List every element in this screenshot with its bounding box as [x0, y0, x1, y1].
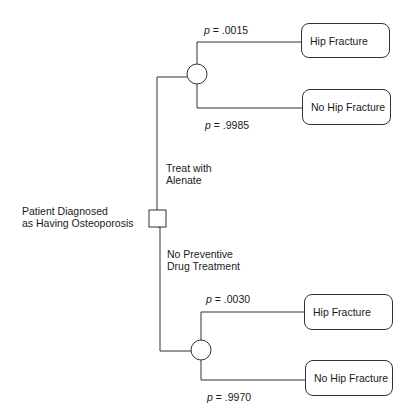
branch-label-no-treatment: No Preventive Drug Treatment: [167, 248, 240, 272]
probability-label: p = .9970: [207, 391, 251, 403]
root-label: Patient Diagnosed as Having Osteoporosis: [22, 205, 133, 229]
root-label-line2: as Having Osteoporosis: [22, 217, 133, 229]
branch-label-line2: Drug Treatment: [167, 260, 240, 272]
outcome-label: Hip Fracture: [313, 306, 371, 318]
branch-line-no-treatment: [158, 227, 191, 351]
branch-label-line1: Treat with: [166, 162, 212, 174]
outcome-label: No Hip Fracture: [311, 101, 385, 113]
outcome-box-hip-fracture: Hip Fracture: [304, 294, 393, 330]
branch-label-line2: Alenate: [166, 174, 212, 186]
probability-label: p = .9985: [205, 119, 249, 131]
outcome-box-hip-fracture: Hip Fracture: [301, 23, 390, 58]
outcome-box-no-hip-fracture: No Hip Fracture: [302, 89, 391, 125]
chance-node-circle-no-treatment: [191, 340, 211, 360]
branch-label-treat: Treat with Alenate: [166, 162, 212, 186]
chance-node-circle-treat: [187, 64, 207, 84]
outcome-label: Hip Fracture: [310, 35, 368, 47]
branch-line-treat: [157, 77, 187, 210]
root-label-line1: Patient Diagnosed: [22, 205, 133, 217]
outcome-label: No Hip Fracture: [314, 372, 388, 384]
branch-label-line1: No Preventive: [167, 248, 240, 260]
outcome-box-no-hip-fracture: No Hip Fracture: [305, 360, 393, 396]
probability-label: p = .0015: [204, 24, 248, 36]
decision-node-square: [149, 210, 166, 227]
probability-label: p = .0030: [206, 293, 250, 305]
